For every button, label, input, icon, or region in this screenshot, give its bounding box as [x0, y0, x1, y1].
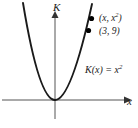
point-label-general: (x, x2) — [99, 12, 122, 24]
marked-point-specific — [86, 28, 91, 33]
y-axis-label: K — [53, 2, 60, 13]
parabola-left-branch — [23, 3, 55, 100]
marked-point-general — [89, 16, 94, 21]
point-label-general-prefix: (x, x — [99, 13, 115, 23]
function-label: K(x) = x2 — [85, 64, 122, 75]
point-label-general-suffix: ) — [119, 13, 122, 23]
function-label-prefix: K(x) = x — [85, 64, 119, 75]
x-axis-label: x — [127, 96, 132, 107]
parabola-figure: K x (x, x2) (3, 9) K(x) = x2 — [0, 0, 138, 128]
parabola-curve — [23, 3, 70, 100]
point-label-specific: (3, 9) — [99, 27, 120, 37]
function-label-exponent: 2 — [119, 63, 122, 70]
parabola-right-branch — [55, 4, 92, 100]
